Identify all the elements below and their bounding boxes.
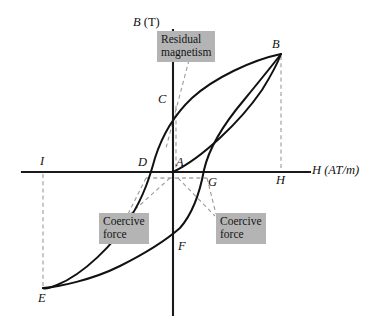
callout-coercive-force-right-line2: force: [220, 228, 262, 241]
callout-coercive-force-right: Coercive force: [216, 213, 266, 244]
hysteresis-diagram: B (T) H (AT/m) B C D A I H G F E Residua…: [0, 0, 372, 326]
callout-residual-magnetism: Residual magnetism: [157, 31, 215, 62]
point-label-a: A: [176, 156, 184, 169]
h-axis-label: H (AT/m): [312, 164, 359, 177]
b-axis-label: B (T): [133, 16, 160, 29]
point-label-g: G: [208, 176, 217, 189]
b-axis-symbol: B: [133, 15, 141, 29]
point-label-b: B: [272, 38, 280, 51]
callout-coercive-force-left: Coercive force: [99, 213, 149, 244]
point-label-c: C: [158, 93, 166, 106]
callout-coercive-force-left-line2: force: [103, 228, 145, 241]
callout-coercive-force-left-line1: Coercive: [103, 215, 145, 228]
point-label-i: I: [40, 155, 44, 168]
leader-coercive-left-a: [128, 178, 146, 214]
callout-residual-magnetism-line2: magnetism: [161, 46, 211, 59]
point-label-h: H: [276, 174, 285, 187]
curve-initial-magnetization: [173, 54, 281, 172]
point-label-e: E: [38, 292, 46, 305]
callout-coercive-force-right-line1: Coercive: [220, 215, 262, 228]
callout-residual-magnetism-line1: Residual: [161, 33, 211, 46]
point-label-f: F: [178, 240, 186, 253]
point-label-d: D: [138, 156, 147, 169]
b-axis-unit: (T): [141, 15, 160, 29]
